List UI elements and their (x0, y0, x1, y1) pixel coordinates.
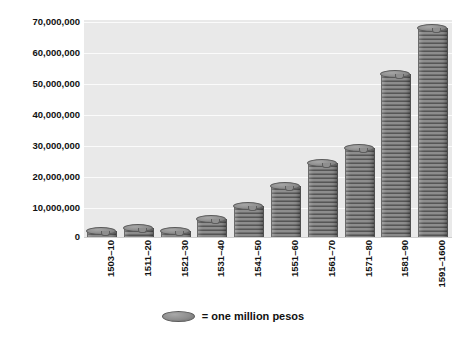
coin-notch-icon (138, 228, 147, 233)
x-tick-label: 1571–80 (363, 240, 374, 277)
coin-stack (418, 28, 448, 237)
x-tick-label: 1581–90 (399, 240, 410, 277)
bar[interactable] (418, 28, 446, 237)
coin-notch-icon (101, 231, 110, 236)
x-tick-label: 1541–50 (252, 240, 263, 277)
coin-stack (381, 74, 411, 237)
y-tick-label: 10,000,000 (2, 203, 80, 213)
bar[interactable] (271, 186, 299, 237)
coin-notch-icon (359, 148, 368, 153)
x-tick-label: 1591–1600 (436, 240, 447, 288)
bar[interactable] (124, 228, 152, 237)
bar[interactable] (197, 219, 225, 237)
y-tick-label: 70,000,000 (2, 17, 80, 27)
coin-stack (345, 148, 375, 237)
x-tick-label: 1511–20 (142, 240, 153, 276)
coin-notch-icon (322, 163, 331, 168)
x-tick-label: 1531–40 (215, 240, 226, 277)
bar[interactable] (308, 163, 336, 237)
coin-stack (271, 186, 301, 237)
coin-notch-icon (175, 231, 184, 236)
bar[interactable] (345, 148, 373, 237)
y-tick-label: 0 (2, 232, 80, 242)
x-tick-label: 1561–70 (326, 240, 337, 277)
chart-legend: = one million pesos (0, 305, 466, 327)
y-axis: 70,000,000 60,000,000 50,000,000 40,000,… (0, 0, 80, 339)
x-tick-label: 1503–10 (105, 240, 116, 277)
coin-stack (234, 206, 264, 237)
chart-container: 70,000,000 60,000,000 50,000,000 40,000,… (0, 0, 466, 339)
bar[interactable] (161, 231, 189, 237)
bar[interactable] (87, 231, 115, 237)
y-tick-label: 30,000,000 (2, 141, 80, 151)
x-axis-baseline (84, 237, 452, 238)
y-tick-label: 60,000,000 (2, 48, 80, 58)
coin-notch-icon (211, 219, 220, 224)
x-axis: 1503–101511–201521–301531–401541–501551–… (84, 240, 452, 302)
coin-stack (308, 163, 338, 237)
y-tick-label: 20,000,000 (2, 172, 80, 182)
bar-series (84, 20, 452, 237)
y-tick-label: 50,000,000 (2, 79, 80, 89)
coin-icon (162, 311, 195, 322)
x-tick-label: 1521–30 (179, 240, 190, 277)
x-tick-label: 1551–60 (289, 240, 300, 277)
legend-label: = one million pesos (202, 310, 304, 322)
bar[interactable] (234, 206, 262, 237)
y-tick-label: 40,000,000 (2, 110, 80, 120)
bar[interactable] (381, 74, 409, 237)
